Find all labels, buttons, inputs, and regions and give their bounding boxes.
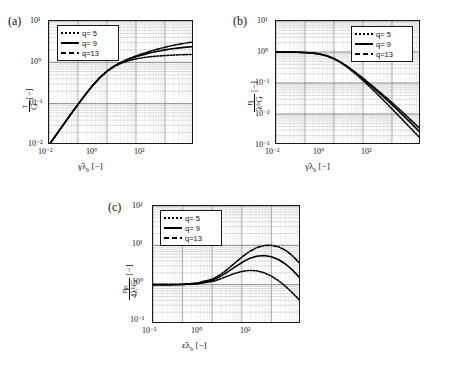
panel-a-tag: (a) [8, 14, 21, 29]
panel-a-ytick-0: 10¹ [30, 16, 40, 25]
panel-a: (a) 10¹ 10⁰ 10⁻¹ 10⁻² τ G [−] 10⁻² 10⁰ 1… [0, 0, 225, 190]
legend-label-q9: q= 9 [376, 40, 391, 49]
legend-row-q5: q= 5 [164, 213, 218, 223]
legend-row-q9: q= 9 [61, 38, 115, 48]
panel-c-ylabel: ηₚ 4λᵇG [−] [120, 265, 140, 300]
panel-c-xlabel-unit: [−] [195, 340, 206, 350]
panel-b-ylabel-unit: [−] [249, 81, 259, 92]
panel-c-ytick-1: 10¹ [132, 239, 142, 248]
panel-c-tag: (c) [108, 200, 121, 215]
panel-c: (c) 10² 10¹ 10⁰ 10⁻¹ ηₚ 4λᵇG [−] 10⁻² 10… [100, 185, 350, 375]
panel-b-ytick-0: 10¹ [257, 16, 267, 25]
legend-row-q13: q=13 [355, 49, 409, 59]
panel-b-xtick-1: 10⁰ [313, 147, 324, 156]
panel-a-legend: q= 5 q= 9 q=13 [57, 25, 119, 61]
panel-b-ytick-1: 10⁰ [257, 47, 268, 56]
legend-sample-solid [164, 224, 182, 232]
legend-sample-dotted [164, 214, 182, 222]
legend-sample-dashdot [164, 234, 182, 242]
legend-label-q13: q=13 [376, 50, 393, 59]
legend-row-q5: q= 5 [61, 28, 115, 38]
legend-row-q9: q= 9 [164, 223, 218, 233]
legend-label-q9: q= 9 [185, 224, 200, 233]
panel-a-ylabel-fraction: τ G [20, 102, 40, 113]
panel-b: (b) 10¹ 10⁰ 10⁻¹ 10⁻² 10⁻³ η λᵇG [−] 10⁻… [225, 0, 449, 190]
panel-b-xlabel-sub: b [313, 167, 316, 173]
panel-c-ytick-3: 10⁻¹ [130, 315, 144, 324]
panel-c-xtick-1: 10⁰ [191, 326, 202, 335]
panel-c-ylabel-num: ηₚ [120, 278, 129, 300]
legend-label-q5: q= 5 [82, 29, 97, 38]
panel-b-xlabel: γ̇λb [−] [305, 161, 330, 173]
panel-c-legend: q= 5 q= 9 q=13 [160, 210, 222, 246]
legend-sample-dotted [355, 30, 373, 38]
panel-a-ylabel-den: G [29, 102, 39, 113]
legend-row-q13: q=13 [61, 48, 115, 58]
panel-c-ylabel-den: 4λᵇG [129, 278, 139, 300]
panel-a-xlabel-unit: [−] [92, 161, 103, 171]
panel-a-ytick-1: 10⁰ [30, 57, 41, 66]
legend-sample-solid [61, 39, 79, 47]
panel-b-tag: (b) [233, 14, 247, 29]
legend-label-q13: q=13 [185, 234, 202, 243]
panel-b-xtick-2: 10² [361, 147, 371, 156]
panel-b-xtick-0: 10⁻² [265, 147, 279, 156]
panel-c-xtick-2: 10² [240, 326, 250, 335]
panel-a-ylabel: τ G [−] [20, 88, 40, 112]
panel-a-xtick-2: 10² [134, 147, 144, 156]
panel-b-legend: q= 5 q= 9 q=13 [351, 26, 413, 62]
panel-a-ylabel-unit: [−] [24, 88, 34, 99]
panel-c-xtick-0: 10⁻² [142, 326, 156, 335]
panel-b-ylabel-num: η [245, 94, 254, 112]
panel-b-ylabel: η λᵇG [−] [245, 81, 265, 112]
panel-b-xlabel-unit: [−] [319, 161, 330, 171]
panel-c-ylabel-fraction: ηₚ 4λᵇG [120, 278, 140, 300]
panel-a-xlabel-sub: b [86, 167, 89, 173]
legend-sample-dotted [61, 29, 79, 37]
legend-label-q5: q= 5 [185, 214, 200, 223]
legend-label-q9: q= 9 [82, 39, 97, 48]
panel-c-ytick-0: 10² [132, 201, 142, 210]
legend-row-q5: q= 5 [355, 29, 409, 39]
panel-a-xlabel: γ̇λb [−] [78, 161, 103, 173]
legend-sample-dashdot [61, 49, 79, 57]
panel-c-xlabel: ε̇λb [−] [182, 340, 206, 352]
panel-c-xlabel-sub: b [190, 346, 193, 352]
panel-a-xtick-0: 10⁻² [38, 147, 52, 156]
legend-sample-dashdot [355, 50, 373, 58]
panel-a-ylabel-num: τ [20, 102, 29, 113]
legend-sample-solid [355, 40, 373, 48]
panel-b-ylabel-fraction: η λᵇG [245, 94, 265, 112]
panel-a-xtick-1: 10⁰ [86, 147, 97, 156]
panel-c-ylabel-unit: [−] [124, 265, 134, 276]
legend-label-q5: q= 5 [376, 30, 391, 39]
legend-row-q9: q= 9 [355, 39, 409, 49]
panel-b-ylabel-den: λᵇG [254, 94, 264, 112]
legend-row-q13: q=13 [164, 233, 218, 243]
legend-label-q13: q=13 [82, 49, 99, 58]
